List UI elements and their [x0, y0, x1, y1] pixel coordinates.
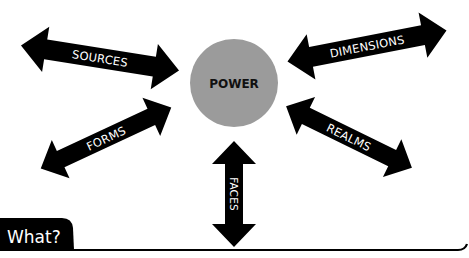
power-concept-diagram: POWER SOURCES DIMENSIONS FORMS REALMS FA…	[0, 0, 469, 258]
what-tab-label: What?	[7, 227, 61, 247]
power-node: POWER	[190, 39, 278, 127]
faces-label: FACES	[228, 177, 240, 211]
forms-label: FORMS	[84, 123, 128, 153]
forms-arrow: FORMS	[32, 89, 180, 188]
what-tab: What?	[0, 218, 74, 250]
power-label: POWER	[209, 77, 259, 91]
faces-arrow: FACES	[212, 141, 256, 247]
realms-arrow: REALMS	[277, 87, 421, 186]
sources-arrow: SOURCES	[17, 23, 182, 93]
dimensions-arrow: DIMENSIONS	[283, 8, 451, 84]
